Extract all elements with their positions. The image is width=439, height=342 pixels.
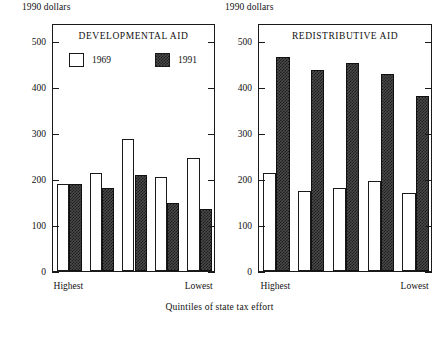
y-tick-mark: [52, 226, 59, 227]
y-tick-mark: [52, 42, 59, 43]
bar-1991-highest: [276, 57, 289, 271]
figure-bar-chart-pair: 1990 dollars DEVELOPMENTAL AID 19691991 …: [0, 0, 439, 342]
y-tick-mark-right: [208, 226, 215, 227]
bar-1969-highest: [263, 173, 276, 271]
bars-layer-right: [259, 25, 431, 271]
y-tick-label: 200: [224, 175, 252, 185]
panel-redistributive-aid: 1990 dollars REDISTRIBUTIVE AID 01002003…: [220, 0, 439, 300]
y-tick-mark: [258, 88, 265, 89]
bars-layer-left: [53, 25, 214, 271]
y-tick-mark-right: [208, 134, 215, 135]
y-tick-mark: [258, 134, 265, 135]
y-tick-mark: [258, 272, 265, 273]
y-tick-label: 300: [224, 129, 252, 139]
y-tick-label: 0: [18, 267, 46, 277]
y-tick-mark-right: [208, 42, 215, 43]
y-tick-label: 500: [224, 37, 252, 47]
plot-area-right: REDISTRIBUTIVE AID: [258, 24, 432, 272]
y-tick-mark: [258, 42, 265, 43]
bar-1969-4th: [155, 177, 167, 271]
y-tick-mark: [52, 134, 59, 135]
y-axis-units-label-right: 1990 dollars: [225, 2, 273, 12]
bar-1991-4th: [381, 74, 394, 271]
y-tick-label: 400: [224, 83, 252, 93]
bar-1969-3rd: [333, 188, 346, 271]
x-tick-label-lowest: Lowest: [173, 281, 225, 291]
y-axis-units-label-left: 1990 dollars: [22, 2, 70, 12]
y-tick-mark-right: [425, 180, 432, 181]
bar-1991-2nd: [102, 188, 114, 271]
bar-1969-lowest: [402, 193, 415, 271]
bar-1969-lowest: [187, 158, 199, 271]
panel-developmental-aid: 1990 dollars DEVELOPMENTAL AID 19691991 …: [0, 0, 219, 300]
bar-1991-lowest: [200, 209, 212, 271]
y-tick-mark: [52, 272, 59, 273]
bar-1969-highest: [57, 184, 69, 271]
y-tick-label: 400: [18, 83, 46, 93]
x-tick-label-highest: Highest: [249, 281, 301, 291]
bar-1969-2nd: [90, 173, 102, 271]
bar-1991-lowest: [416, 96, 429, 271]
y-tick-mark: [52, 88, 59, 89]
y-tick-mark-right: [208, 272, 215, 273]
bar-1991-3rd: [135, 175, 147, 271]
x-tick-label-lowest: Lowest: [389, 281, 439, 291]
y-tick-label: 500: [18, 37, 46, 47]
y-tick-label: 300: [18, 129, 46, 139]
bar-1991-3rd: [346, 63, 359, 271]
y-tick-label: 0: [224, 267, 252, 277]
y-tick-mark: [52, 180, 59, 181]
y-tick-mark-right: [425, 134, 432, 135]
bar-1991-4th: [167, 203, 179, 271]
x-tick-label-highest: Highest: [42, 281, 94, 291]
bar-1969-3rd: [122, 139, 134, 271]
y-tick-mark-right: [425, 272, 432, 273]
y-tick-mark: [258, 180, 265, 181]
y-tick-label: 200: [18, 175, 46, 185]
y-tick-mark-right: [425, 88, 432, 89]
y-tick-mark-right: [208, 180, 215, 181]
y-tick-mark: [258, 226, 265, 227]
bar-1991-highest: [69, 184, 81, 271]
y-tick-mark-right: [208, 88, 215, 89]
y-tick-mark-right: [425, 226, 432, 227]
shared-x-axis-caption: Quintiles of state tax effort: [0, 302, 439, 312]
bar-1969-2nd: [298, 191, 311, 271]
bar-1991-2nd: [311, 70, 324, 271]
y-tick-label: 100: [18, 221, 46, 231]
plot-area-left: DEVELOPMENTAL AID 19691991: [52, 24, 215, 272]
y-tick-mark-right: [425, 42, 432, 43]
bar-1969-4th: [368, 181, 381, 271]
y-tick-label: 100: [224, 221, 252, 231]
